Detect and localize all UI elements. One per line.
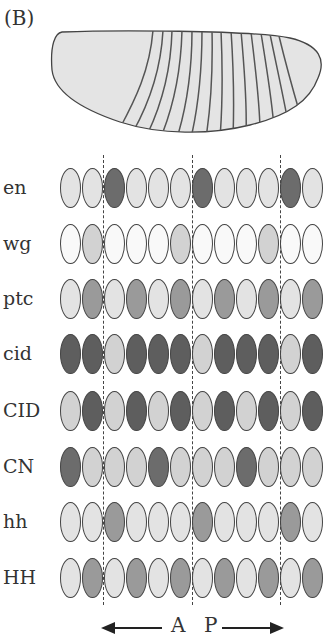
cell-oval — [60, 334, 81, 374]
cell-oval — [192, 558, 213, 598]
cell-oval — [280, 558, 301, 598]
cell-oval — [258, 558, 279, 598]
cell-oval — [170, 334, 191, 374]
cell-oval — [82, 447, 103, 487]
cell-oval — [236, 334, 257, 374]
row-label-hh-protein: HH — [3, 568, 36, 587]
cell-oval — [104, 334, 125, 374]
cell-oval — [236, 558, 257, 598]
cell-oval — [280, 168, 301, 208]
cell-oval — [214, 502, 235, 542]
cell-oval — [170, 447, 191, 487]
row-label-wg: wg — [3, 234, 31, 253]
cell-oval — [280, 279, 301, 319]
cell-oval — [60, 391, 81, 431]
cell-oval — [280, 334, 301, 374]
cell-oval — [60, 502, 81, 542]
cell-oval — [302, 279, 323, 319]
embryo-illustration — [0, 0, 332, 140]
cell-oval — [82, 502, 103, 542]
cell-oval — [214, 391, 235, 431]
cell-oval — [104, 558, 125, 598]
cell-oval — [148, 279, 169, 319]
cell-oval — [82, 391, 103, 431]
cell-oval — [82, 279, 103, 319]
right-arrow-head — [270, 622, 284, 634]
cell-oval — [236, 502, 257, 542]
cell-oval — [126, 224, 147, 264]
cell-oval — [214, 334, 235, 374]
cell-oval — [302, 224, 323, 264]
cell-oval — [60, 279, 81, 319]
cell-oval — [258, 279, 279, 319]
cell-oval — [214, 168, 235, 208]
cell-oval — [192, 391, 213, 431]
cell-oval — [148, 224, 169, 264]
cell-oval — [126, 558, 147, 598]
row-label-cid: cid — [3, 344, 32, 363]
cell-oval — [170, 168, 191, 208]
cell-oval — [148, 168, 169, 208]
cell-oval — [302, 502, 323, 542]
cell-oval — [104, 279, 125, 319]
row-label-hh: hh — [3, 512, 27, 531]
segment-boundary-3 — [280, 155, 281, 605]
cell-oval — [236, 447, 257, 487]
cell-oval — [104, 502, 125, 542]
cell-oval — [214, 447, 235, 487]
cell-oval — [236, 279, 257, 319]
cell-oval — [302, 334, 323, 374]
cell-oval — [280, 224, 301, 264]
cell-oval — [280, 391, 301, 431]
cell-oval — [82, 334, 103, 374]
cell-oval — [126, 168, 147, 208]
cell-oval — [192, 502, 213, 542]
cell-oval — [302, 558, 323, 598]
cell-oval — [104, 447, 125, 487]
cell-oval — [104, 391, 125, 431]
cell-oval — [192, 447, 213, 487]
cell-oval — [170, 279, 191, 319]
cell-oval — [302, 168, 323, 208]
cell-oval — [170, 391, 191, 431]
cell-oval — [214, 279, 235, 319]
segment-boundary-1 — [103, 155, 104, 605]
cell-oval — [104, 224, 125, 264]
cell-oval — [280, 447, 301, 487]
cell-oval — [236, 224, 257, 264]
cell-oval — [192, 279, 213, 319]
cell-oval — [170, 558, 191, 598]
cell-oval — [258, 334, 279, 374]
cell-oval — [148, 502, 169, 542]
cell-oval — [258, 224, 279, 264]
cell-oval — [60, 224, 81, 264]
cell-oval — [126, 279, 147, 319]
cell-oval — [60, 168, 81, 208]
cell-oval — [60, 558, 81, 598]
cell-oval — [148, 447, 169, 487]
cell-oval — [280, 502, 301, 542]
cell-oval — [82, 224, 103, 264]
cell-oval — [126, 502, 147, 542]
cell-oval — [60, 447, 81, 487]
cell-oval — [236, 168, 257, 208]
cell-oval — [192, 224, 213, 264]
cell-oval — [82, 558, 103, 598]
cell-oval — [214, 558, 235, 598]
cell-oval — [170, 502, 191, 542]
cell-oval — [148, 334, 169, 374]
cell-oval — [302, 447, 323, 487]
posterior-label: P — [204, 613, 217, 637]
cell-oval — [258, 502, 279, 542]
cell-oval — [82, 168, 103, 208]
segment-boundary-2 — [192, 155, 193, 605]
cell-oval — [302, 391, 323, 431]
anterior-label: A — [171, 613, 185, 637]
cell-oval — [258, 168, 279, 208]
cell-oval — [126, 447, 147, 487]
cell-oval — [258, 391, 279, 431]
cell-oval — [192, 168, 213, 208]
cell-oval — [104, 168, 125, 208]
cell-oval — [148, 391, 169, 431]
cell-oval — [258, 447, 279, 487]
